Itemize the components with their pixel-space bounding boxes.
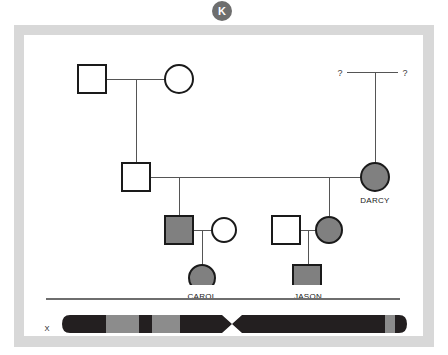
chromosome-band bbox=[395, 314, 409, 334]
chromosome-band bbox=[139, 314, 152, 334]
pedigree-chart: ? ? DARCY bbox=[24, 35, 423, 285]
gen1-unknown-left-label: ? bbox=[337, 68, 342, 78]
gen2-father-square[interactable] bbox=[122, 163, 150, 191]
gen3-son-spouse-circle[interactable] bbox=[212, 218, 236, 242]
chromosome-axis-label: X bbox=[44, 324, 49, 333]
chromosome-band bbox=[180, 314, 232, 334]
gen3-daughter-affected-circle[interactable] bbox=[316, 217, 342, 243]
figure-badge-k: K bbox=[212, 1, 232, 21]
gen2-darcy-circle[interactable] bbox=[361, 163, 389, 191]
chromosome-band bbox=[152, 314, 180, 334]
badge-bar: K bbox=[0, 0, 448, 22]
gen2-darcy-label: DARCY bbox=[360, 196, 390, 205]
chromosome-band bbox=[232, 314, 385, 334]
chromosome-bands bbox=[62, 314, 409, 334]
gen1-father-square[interactable] bbox=[78, 65, 106, 93]
gen3-daughter-spouse-square[interactable] bbox=[272, 216, 300, 244]
chromosome-diagram: X bbox=[24, 280, 423, 355]
gen1-unknown-right-label: ? bbox=[402, 68, 407, 78]
chromosome-band bbox=[106, 314, 139, 334]
figure-panel: ? ? DARCY CAROL JASON X bbox=[24, 35, 423, 336]
chromosome-band bbox=[385, 314, 395, 334]
figure-card-frame: ? ? DARCY CAROL JASON X bbox=[14, 25, 434, 347]
chromosome-band bbox=[62, 314, 106, 334]
gen3-son-affected-square[interactable] bbox=[165, 216, 193, 244]
gen1-mother-circle[interactable] bbox=[165, 65, 193, 93]
